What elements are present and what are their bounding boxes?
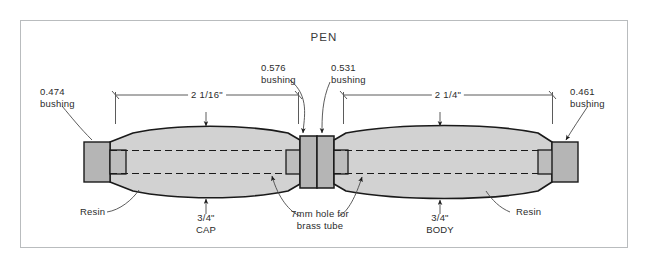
brass-tube-stub-left <box>110 150 126 174</box>
brass-tube-stub-body-inner <box>334 150 348 174</box>
callout-bushing-right: 0.461 bushing <box>570 86 605 109</box>
callout-bushing-left-value: 0.474 <box>40 86 75 98</box>
callout-bushing-body-inner-label: bushing <box>331 74 366 86</box>
bushing-block-body-inner <box>317 136 334 188</box>
callout-bushing-body-inner-value: 0.531 <box>331 62 366 74</box>
callout-bushing-cap-inner: 0.576 bushing <box>261 62 296 85</box>
label-body-part: 3/4" BODY <box>426 212 454 235</box>
callout-bushing-right-label: bushing <box>570 98 605 110</box>
callout-bushing-left: 0.474 bushing <box>40 86 75 109</box>
bushing-block-left <box>84 142 110 182</box>
callout-bushing-left-label: bushing <box>40 98 75 110</box>
label-cap-part: 3/4" CAP <box>196 212 216 235</box>
callout-hole-line2: brass tube <box>291 220 349 232</box>
leader-bushing-left <box>62 106 92 140</box>
callout-bushing-right-value: 0.461 <box>570 86 605 98</box>
leader-bushing-body-inner <box>322 82 330 133</box>
label-body-diameter: 3/4" <box>426 212 454 224</box>
dimension-cap-length: 2 1/16" <box>188 89 226 100</box>
callout-resin-left: Resin <box>80 206 105 218</box>
callout-resin-right: Resin <box>516 206 541 218</box>
callout-brass-tube-hole: 7mm hole for brass tube <box>291 208 349 231</box>
bushing-block-cap-inner <box>300 136 317 188</box>
label-cap-diameter: 3/4" <box>196 212 216 224</box>
body-resin-barrel <box>334 126 552 199</box>
label-cap-name: CAP <box>196 224 216 236</box>
callout-hole-line1: 7mm hole for <box>291 208 349 220</box>
label-body-name: BODY <box>426 224 454 236</box>
callout-bushing-cap-inner-value: 0.576 <box>261 62 296 74</box>
callout-bushing-body-inner: 0.531 bushing <box>331 62 366 85</box>
leader-bushing-right <box>566 106 588 140</box>
brass-tube-stub-cap-inner <box>286 150 300 174</box>
drawing-sheet: PEN <box>0 0 648 267</box>
dimension-body-length: 2 1/4" <box>432 89 464 100</box>
bushing-block-right <box>552 142 578 182</box>
leader-bushing-cap-inner <box>290 80 305 133</box>
cap-resin-barrel <box>110 126 300 198</box>
callout-bushing-cap-inner-label: bushing <box>261 74 296 86</box>
leader-resin-left <box>107 190 139 212</box>
